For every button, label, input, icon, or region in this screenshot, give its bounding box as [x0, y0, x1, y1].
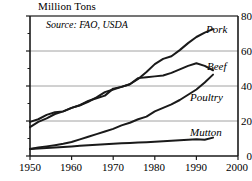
series-line-mutton — [30, 138, 213, 149]
plot-area — [0, 0, 252, 181]
data-series-lines — [30, 29, 213, 149]
chart-container: Million Tons Source: FAO, USDA 80 60 40 … — [0, 0, 252, 181]
